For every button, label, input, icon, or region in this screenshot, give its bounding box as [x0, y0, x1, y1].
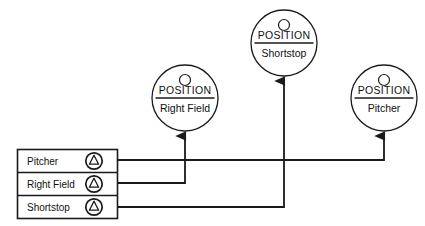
node-pitcher[interactable]: POSITION Pitcher	[351, 65, 417, 131]
list-item-pitcher-label: Pitcher	[27, 156, 59, 167]
position-diagram: POSITION Right Field POSITION Shortstop …	[0, 0, 425, 226]
node-pitcher-name: Pitcher	[368, 102, 401, 114]
node-right-field-name: Right Field	[160, 102, 210, 114]
diagram-canvas: POSITION Right Field POSITION Shortstop …	[0, 0, 425, 226]
connector-pitcher[interactable]	[118, 136, 384, 160]
node-pitcher-kind: POSITION	[358, 84, 411, 96]
list-item[interactable]: Pitcher	[18, 150, 118, 173]
list-item[interactable]: Right Field	[18, 173, 118, 196]
list-item-shortstop-label: Shortstop	[27, 202, 70, 213]
position-marker-icon	[86, 176, 102, 192]
list-item[interactable]: Shortstop	[18, 196, 118, 219]
position-marker-icon	[86, 153, 102, 169]
list-item-right-field-label: Right Field	[27, 179, 75, 190]
node-right-field[interactable]: POSITION Right Field	[152, 65, 218, 131]
node-shortstop-name: Shortstop	[262, 47, 307, 59]
node-right-field-kind: POSITION	[159, 84, 212, 96]
position-list[interactable]: Pitcher Right Field Shor	[18, 150, 118, 219]
node-shortstop-kind: POSITION	[258, 29, 311, 41]
position-marker-icon	[86, 199, 102, 215]
node-shortstop[interactable]: POSITION Shortstop	[251, 10, 317, 76]
